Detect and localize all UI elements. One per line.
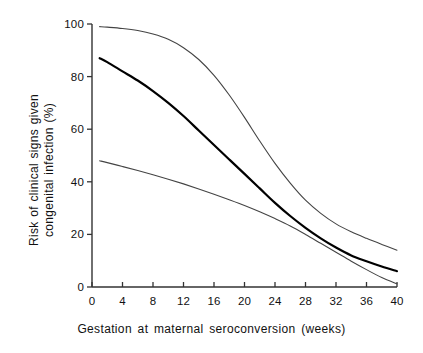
- x-tick-label-0: 0: [89, 295, 96, 307]
- x-tick-label-40: 40: [390, 295, 403, 307]
- y-axis-ticks: [87, 24, 92, 287]
- chart-figure: 020406080100 0481216202428323640 Gestati…: [0, 0, 423, 353]
- x-tick-label-36: 36: [360, 295, 373, 307]
- x-tick-label-24: 24: [268, 295, 281, 307]
- curve-2: [100, 161, 397, 284]
- x-tick-label-32: 32: [329, 295, 342, 307]
- x-tick-label-12: 12: [177, 295, 190, 307]
- y-axis-title: Risk of clinical signs given congenital …: [27, 55, 57, 285]
- risk-curves: [100, 27, 397, 284]
- y-axis-title-line2: congenital infection (%): [42, 55, 57, 285]
- x-axis-ticks: [92, 282, 397, 287]
- curve-0: [100, 27, 397, 251]
- x-tick-label-4: 4: [119, 295, 126, 307]
- x-tick-label-16: 16: [207, 295, 220, 307]
- x-axis-title: Gestation at maternal seroconversion (we…: [0, 322, 423, 336]
- y-axis-title-line1: Risk of clinical signs given: [27, 55, 42, 285]
- x-tick-label-8: 8: [150, 295, 157, 307]
- x-tick-label-28: 28: [299, 295, 312, 307]
- y-tick-label-100: 100: [40, 18, 84, 30]
- curve-1: [100, 58, 397, 271]
- x-tick-label-20: 20: [238, 295, 251, 307]
